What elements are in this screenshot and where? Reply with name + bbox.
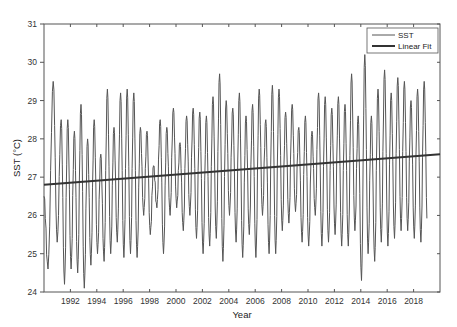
x-tick-label: 1992: [61, 296, 80, 306]
x-tick-label: 2012: [325, 296, 344, 306]
legend-linear-fit-label: Linear Fit: [398, 42, 432, 51]
legend-sst-label: SST: [398, 31, 414, 40]
x-tick-label: 2014: [351, 296, 370, 306]
x-tick-label: 1994: [87, 296, 106, 306]
y-tick-label: 25: [28, 249, 38, 259]
y-tick-label: 31: [28, 19, 38, 29]
y-tick-label: 30: [28, 57, 38, 67]
y-tick-label: 27: [28, 172, 38, 182]
x-axis-title: Year: [232, 309, 251, 320]
sst-line-chart: 2425262728293031 19921994199619982000200…: [0, 0, 457, 327]
y-tick-label: 29: [28, 96, 38, 106]
x-tick-label: 2000: [167, 296, 186, 306]
x-tick-label: 2018: [404, 296, 423, 306]
y-tick-label: 28: [28, 134, 38, 144]
y-tick-label: 24: [28, 287, 38, 297]
legend: SST Linear Fit: [367, 28, 438, 53]
x-tick-label: 2004: [219, 296, 238, 306]
x-tick-label: 2016: [378, 296, 397, 306]
y-axis-title: SST (°C): [11, 139, 22, 177]
x-tick-label: 2002: [193, 296, 212, 306]
x-tick-label: 2006: [246, 296, 265, 306]
x-tick-label: 2008: [272, 296, 291, 306]
x-tick-label: 1996: [114, 296, 133, 306]
x-tick-label: 1998: [140, 296, 159, 306]
y-tick-label: 26: [28, 210, 38, 220]
x-tick-label: 2010: [299, 296, 318, 306]
